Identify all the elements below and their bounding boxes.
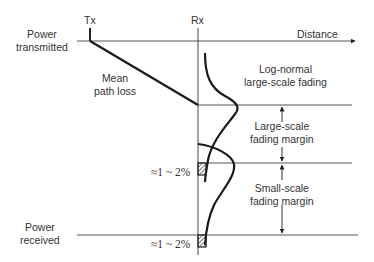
distance-label: Distance bbox=[297, 28, 338, 41]
power-received-label: Power received bbox=[20, 221, 60, 246]
outage-upper-label: ≈1 ~ 2% bbox=[151, 166, 190, 178]
mean-path-loss-line2: path loss bbox=[94, 85, 136, 98]
tx-label: Tx bbox=[84, 14, 96, 27]
small-scale-margin-label: Small-scale fading margin bbox=[250, 182, 314, 207]
lognormal-fading-line1: Log-normal bbox=[244, 63, 327, 76]
small-scale-margin-line2: fading margin bbox=[250, 195, 314, 208]
small-scale-pdf-curve bbox=[198, 144, 234, 245]
power-transmitted-line1: Power bbox=[16, 28, 68, 41]
mean-path-loss-label: Mean path loss bbox=[94, 72, 136, 97]
power-transmitted-line2: transmitted bbox=[16, 41, 68, 54]
power-received-line1: Power bbox=[20, 221, 60, 234]
lognormal-fading-label: Log-normal large-scale fading bbox=[244, 63, 327, 88]
power-received-line2: received bbox=[20, 234, 60, 247]
large-scale-margin-line2: fading margin bbox=[250, 133, 314, 146]
outage-area-upper bbox=[198, 163, 206, 175]
mean-path-loss-line1: Mean bbox=[94, 72, 136, 85]
large-scale-margin-label: Large-scale fading margin bbox=[250, 120, 314, 145]
outage-lower-label: ≈1 ~ 2% bbox=[151, 238, 190, 250]
rx-label: Rx bbox=[191, 14, 204, 27]
small-scale-margin-line1: Small-scale bbox=[250, 182, 314, 195]
power-transmitted-label: Power transmitted bbox=[16, 28, 68, 53]
large-scale-margin-line1: Large-scale bbox=[250, 120, 314, 133]
lognormal-fading-line2: large-scale fading bbox=[244, 76, 327, 89]
outage-area-lower bbox=[198, 235, 206, 247]
